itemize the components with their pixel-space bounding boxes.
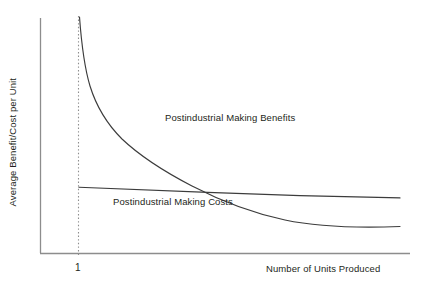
x-tick-label-one: 1 <box>75 262 81 274</box>
x-axis-title: Number of Units Produced <box>266 264 380 275</box>
y-axis-title-label: Average Benefit/Cost per Unit <box>8 78 19 206</box>
y-axis-title: Average Benefit/Cost per Unit <box>8 78 19 206</box>
series-label-benefits: Postindustrial Making Benefits <box>165 113 295 124</box>
series-label-costs: Postindustrial Making Costs <box>113 197 233 208</box>
chart-figure: Average Benefit/Cost per Unit Number of … <box>0 0 423 289</box>
chart-plot-area <box>0 0 423 289</box>
